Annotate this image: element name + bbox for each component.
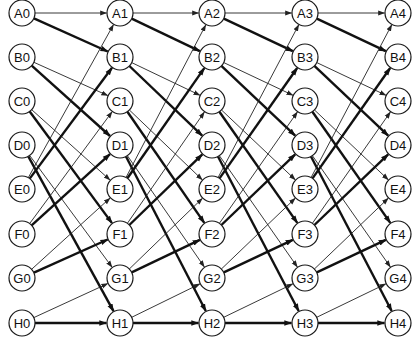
- node-h3: H3: [292, 310, 318, 336]
- node-label: B0: [14, 50, 30, 65]
- node-b2: B2: [199, 44, 225, 70]
- edge-G1-F2: [132, 240, 200, 273]
- node-b0: B0: [9, 44, 35, 70]
- node-label: F2: [204, 227, 219, 242]
- edge-C0-E1: [32, 110, 110, 180]
- node-d0: D0: [9, 132, 35, 158]
- node-label: D2: [204, 138, 221, 153]
- edge-E2-B3: [220, 68, 298, 178]
- node-a1: A1: [107, 0, 133, 26]
- edge-H0-G1: [34, 284, 108, 318]
- node-label: G4: [389, 271, 406, 286]
- node-d4: D4: [385, 132, 411, 158]
- node-label: D1: [112, 138, 129, 153]
- node-label: G1: [111, 271, 128, 286]
- node-label: C1: [112, 94, 129, 109]
- edge-H3-G4: [317, 284, 386, 317]
- edge-A0-B1: [34, 18, 108, 51]
- node-label: F4: [390, 227, 405, 242]
- node-a0: A0: [9, 0, 35, 26]
- node-label: B1: [112, 50, 128, 65]
- node-label: E2: [204, 182, 220, 197]
- node-label: B3: [297, 50, 313, 65]
- node-label: A4: [390, 6, 406, 21]
- node-c4: C4: [385, 88, 411, 114]
- node-f0: F0: [9, 221, 35, 247]
- edge-G2-E3: [221, 198, 295, 269]
- node-label: G0: [13, 271, 30, 286]
- edge-H2-G3: [224, 284, 293, 317]
- node-a3: A3: [292, 0, 318, 26]
- node-f1: F1: [107, 221, 133, 247]
- node-label: H1: [112, 316, 129, 331]
- node-label: C4: [390, 94, 407, 109]
- edge-E1-B2: [127, 68, 204, 178]
- node-e4: E4: [385, 176, 411, 202]
- node-f2: F2: [199, 221, 225, 247]
- node-label: B2: [204, 50, 220, 65]
- node-g0: G0: [9, 265, 35, 291]
- node-label: C0: [14, 94, 31, 109]
- edge-A2-B3: [224, 19, 293, 52]
- edge-D3-G4: [312, 156, 390, 267]
- node-h1: H1: [107, 310, 133, 336]
- node-d1: D1: [107, 132, 133, 158]
- node-f3: F3: [292, 221, 318, 247]
- edge-G0-F1: [34, 240, 108, 273]
- node-label: F1: [112, 227, 127, 242]
- edge-F1-D2: [129, 154, 202, 225]
- edge-F2-D3: [221, 154, 295, 225]
- node-label: H4: [390, 316, 407, 331]
- node-d3: D3: [292, 132, 318, 158]
- edge-E3-B4: [313, 68, 391, 178]
- node-e0: E0: [9, 176, 35, 202]
- node-g2: G2: [199, 265, 225, 291]
- node-g1: G1: [107, 265, 133, 291]
- node-f4: F4: [385, 221, 411, 247]
- edge-G3-F4: [317, 240, 386, 273]
- edge-H1-G2: [132, 284, 200, 317]
- node-label: H0: [14, 316, 31, 331]
- edge-G1-E2: [129, 198, 202, 269]
- node-d2: D2: [199, 132, 225, 158]
- node-label: H2: [204, 316, 221, 331]
- node-h2: H2: [199, 310, 225, 336]
- edge-F3-D4: [314, 154, 388, 225]
- node-label: F3: [297, 227, 312, 242]
- edge-A1-B2: [132, 19, 200, 52]
- node-label: A1: [112, 6, 128, 21]
- edge-G0-E1: [32, 198, 110, 269]
- edge-D2-G3: [219, 156, 297, 267]
- node-c1: C1: [107, 88, 133, 114]
- edge-G2-F3: [224, 240, 293, 273]
- node-a2: A2: [199, 0, 225, 26]
- node-b4: B4: [385, 44, 411, 70]
- node-c2: C2: [199, 88, 225, 114]
- node-label: E3: [297, 182, 313, 197]
- node-c3: C3: [292, 88, 318, 114]
- node-label: G3: [296, 271, 313, 286]
- node-h4: H4: [385, 310, 411, 336]
- edge-E2-A3: [218, 25, 299, 178]
- node-b1: B1: [107, 44, 133, 70]
- node-c0: C0: [9, 88, 35, 114]
- node-h0: H0: [9, 310, 35, 336]
- node-label: E4: [390, 182, 406, 197]
- edge-F0-D1: [32, 154, 110, 225]
- node-label: D0: [14, 138, 31, 153]
- edge-D1-G2: [127, 156, 204, 267]
- edge-A3-B4: [317, 19, 386, 52]
- node-label: C3: [297, 94, 314, 109]
- node-label: A3: [297, 6, 313, 21]
- edge-D0-G1: [30, 156, 112, 268]
- node-label: A2: [204, 6, 220, 21]
- node-label: D4: [390, 138, 407, 153]
- node-label: C2: [204, 94, 221, 109]
- edge-E0-A1: [28, 25, 113, 178]
- node-a4: A4: [385, 0, 411, 26]
- node-label: G2: [203, 271, 220, 286]
- node-e3: E3: [292, 176, 318, 202]
- node-label: D3: [297, 138, 314, 153]
- node-label: E0: [14, 182, 30, 197]
- shuffle-exchange-diagram: A0B0C0D0E0F0G0H0A1B1C1D1E1F1G1H1A2B2C2D2…: [0, 0, 417, 354]
